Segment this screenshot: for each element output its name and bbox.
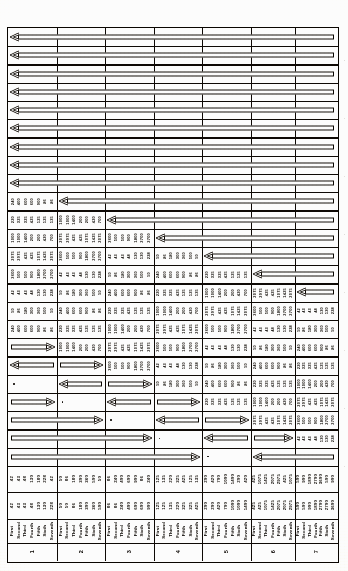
- numeric-value: 900: [182, 271, 186, 278]
- arrow-left-icon: [10, 69, 335, 78]
- numeric-value: 86: [140, 476, 144, 481]
- row-label: First: [156, 526, 160, 536]
- numeric-value: 86: [92, 308, 96, 313]
- arrow-right-cell: [8, 448, 202, 466]
- numeric-value: 420: [244, 475, 248, 483]
- numeric-value: 86: [211, 363, 215, 368]
- numeric-value: 2975: [17, 251, 21, 261]
- row-label: Seventh: [98, 522, 102, 540]
- row-label: Second: [114, 522, 118, 539]
- numeric-cell: 508618030036050050: [202, 356, 251, 374]
- numeric-value: 600: [127, 475, 131, 483]
- numeric-value: 600: [30, 198, 34, 205]
- numeric-value: 86: [72, 503, 76, 508]
- arrow-right-icon: [10, 397, 55, 406]
- numeric-cell: 42434348130130228: [295, 429, 337, 447]
- numeric-value: 2975: [66, 233, 70, 243]
- numeric-value: 500: [296, 475, 300, 483]
- numeric-cell: 2404006006009008686: [295, 338, 337, 356]
- numeric-value: 360: [37, 307, 41, 314]
- row-label: Fifth: [231, 526, 235, 536]
- numeric-cell: 220325325425125125135: [8, 210, 57, 228]
- row-label: Sixth: [325, 525, 329, 536]
- numeric-cell: 220325325425125125135: [105, 302, 154, 320]
- arrow-left-icon: [10, 87, 335, 96]
- numeric-value: 43: [259, 327, 263, 332]
- numeric-value: 240: [11, 198, 15, 205]
- numeric-value: 42: [156, 363, 160, 368]
- row-label: Third: [217, 525, 221, 537]
- numeric-cell: 3600500500900180027002700: [105, 229, 154, 247]
- numeric-value: 200: [176, 307, 180, 314]
- numeric-value: 86: [17, 308, 21, 313]
- numeric-value: 130: [30, 475, 34, 483]
- summary-numeric-cell: 42434348130130228: [8, 492, 57, 519]
- numeric-value: 1000: [205, 288, 209, 298]
- column-index-label: 5: [223, 550, 229, 553]
- numeric-value: 135: [50, 216, 54, 223]
- numeric-cell: 42434348130130228: [8, 283, 57, 301]
- numeric-cell: 3600500500900180027002700: [154, 338, 203, 356]
- numeric-value: 360: [320, 325, 324, 332]
- numeric-value: 425: [30, 252, 34, 259]
- numeric-value: 425: [308, 398, 312, 405]
- numeric-value: 900: [134, 289, 138, 296]
- arrow-left-cell: [105, 393, 154, 411]
- numeric-cell: 220325325425125125135: [202, 393, 251, 411]
- numeric-value: 2975: [259, 288, 263, 298]
- numeric-value: 125: [231, 398, 235, 405]
- numeric-value: 500: [265, 307, 269, 314]
- numeric-value: 228: [50, 502, 54, 510]
- numeric-value: 600: [72, 307, 76, 314]
- numeric-value: 43: [308, 436, 312, 441]
- numeric-value: 600: [24, 198, 28, 205]
- numeric-value: 1075: [289, 474, 293, 484]
- arrow-left-icon: [59, 379, 104, 388]
- numeric-value: 1000: [237, 500, 241, 510]
- numeric-value: 325: [169, 289, 173, 296]
- arrow-left-cell: [105, 210, 337, 228]
- numeric-value: 220: [108, 307, 112, 314]
- arrow-left-cell: [202, 429, 251, 447]
- numeric-value: 425: [224, 307, 228, 314]
- numeric-value: 2075: [156, 324, 160, 334]
- numeric-value: 86: [98, 308, 102, 313]
- row-label: Fifth: [37, 526, 41, 536]
- numeric-value: 400: [302, 344, 306, 351]
- numeric-value: 48: [176, 363, 180, 368]
- numeric-value: 228: [43, 475, 47, 483]
- numeric-value: 125: [325, 362, 329, 369]
- numeric-value: 48: [23, 476, 27, 481]
- numeric-value: 43: [121, 254, 125, 259]
- row-label: Seventh: [50, 522, 54, 540]
- numeric-value: 600: [271, 362, 275, 369]
- numeric-value: 2075: [331, 397, 335, 407]
- numeric-cell: 100010001400200200420700: [251, 393, 296, 411]
- numeric-value: 228: [244, 344, 248, 351]
- numeric-value: 600: [121, 289, 125, 296]
- numeric-value: 600: [224, 380, 228, 387]
- numeric-value: 2700: [319, 500, 323, 510]
- numeric-value: 240: [59, 307, 63, 314]
- numeric-cell: 100010001400200200420700: [154, 302, 203, 320]
- numeric-value: 900: [271, 307, 275, 314]
- numeric-value: 360: [182, 380, 186, 387]
- numeric-value: 425: [127, 344, 131, 351]
- numeric-value: 240: [205, 380, 209, 387]
- numeric-value: 220: [253, 380, 257, 387]
- numeric-cell: 3600500500900180027002700: [202, 320, 251, 338]
- numeric-value: 2700: [43, 269, 47, 279]
- numeric-value: 325: [121, 307, 125, 314]
- numeric-value: 130: [43, 502, 47, 510]
- numeric-value: 325: [302, 362, 306, 369]
- numeric-value: 43: [169, 363, 173, 368]
- numeric-value: 425: [271, 417, 275, 424]
- numeric-value: 125: [37, 216, 41, 223]
- numeric-value: 420: [189, 307, 193, 314]
- numeric-value: 2700: [140, 233, 144, 243]
- row-label: First: [204, 526, 208, 536]
- arrow-left-cell: [8, 46, 337, 64]
- numeric-cell: 3600500500900180027002700: [8, 265, 57, 283]
- numeric-value: 2700: [140, 361, 144, 371]
- numeric-value: 43: [308, 308, 312, 313]
